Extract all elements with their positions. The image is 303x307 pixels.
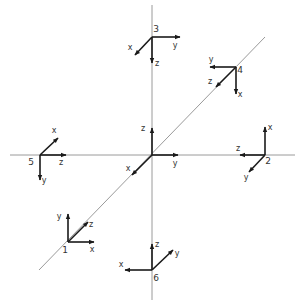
z-axis-label: z [155, 240, 159, 249]
frame-number-label: 4 [237, 65, 243, 75]
y-axis-label: y [209, 55, 214, 64]
x-axis-label: x [128, 43, 133, 52]
frame-number-label: 2 [265, 156, 271, 166]
z-axis-label: z [236, 144, 240, 153]
x-axis-label: x [90, 245, 95, 254]
frame-number-label: 5 [28, 157, 34, 167]
x-axis-arrow-icon [135, 37, 152, 55]
z-axis-label: z [155, 59, 159, 68]
x-axis-label: x [119, 260, 124, 269]
frame-6: zyx6 [119, 240, 180, 283]
y-axis-label: y [175, 249, 180, 258]
x-axis-label: x [238, 90, 243, 99]
coordinate-frames: zyxyxz1xzy2yxz3yxz4zyx5zyx6 [28, 24, 273, 283]
y-axis-arrow-icon [152, 250, 173, 270]
frame-4: yxz4 [208, 55, 243, 99]
y-axis-label: y [173, 41, 178, 50]
z-axis-label: z [89, 220, 93, 229]
z-axis-label: z [141, 124, 145, 133]
x-axis-arrow-icon [132, 155, 152, 175]
y-axis-label: y [57, 212, 62, 221]
z-axis-label: z [59, 158, 63, 167]
coordinate-frames-diagram: zyxyxz1xzy2yxz3yxz4zyx5zyx6 [0, 0, 303, 307]
frame-number-label: 6 [153, 273, 159, 283]
x-axis-label: x [268, 123, 273, 132]
x-axis-label: x [52, 126, 57, 135]
x-axis-label: x [126, 164, 131, 173]
x-axis-arrow-icon [40, 138, 58, 155]
z-axis-arrow-icon [216, 67, 236, 87]
frame-2: xzy2 [236, 123, 273, 182]
z-axis-arrow-icon [68, 222, 88, 242]
frame-number-label: 1 [62, 245, 68, 255]
y-axis-label: y [173, 159, 178, 168]
y-axis-arrow-icon [249, 155, 265, 172]
frame-number-label: 3 [153, 24, 159, 34]
z-axis-label: z [208, 77, 212, 86]
y-axis-label: y [244, 173, 249, 182]
frame-3: yxz3 [128, 24, 180, 68]
y-axis-label: y [42, 176, 47, 185]
